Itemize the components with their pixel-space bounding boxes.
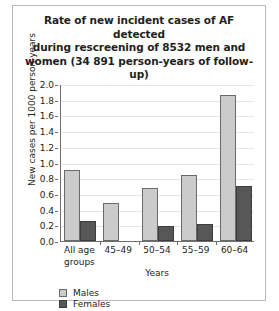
legend-item: Males	[59, 287, 110, 298]
x-axis-title: Years	[60, 268, 254, 278]
bar-male	[103, 203, 119, 241]
bar-female	[197, 224, 213, 241]
bar-series-container	[61, 85, 254, 241]
chart-title-line: Rate of new incident cases of AF detecte…	[19, 14, 259, 41]
bar-group	[216, 85, 255, 241]
y-axis-tick-label: 2.0	[40, 80, 54, 90]
bar-male	[181, 175, 197, 241]
chart-figure: Rate of new incident cases of AF detecte…	[12, 5, 266, 301]
y-axis-tick-mark	[55, 242, 58, 243]
y-axis-tick-mark	[55, 85, 58, 86]
x-axis-tick-label-line: 50–54	[138, 245, 177, 257]
chart-title-line: during rescreening of 8532 men and	[19, 41, 259, 55]
bar-male	[220, 95, 236, 241]
x-axis-tick-label-line: groups	[60, 257, 99, 269]
y-axis-tick-mark	[55, 101, 58, 102]
bar-female	[158, 226, 174, 241]
bar-male	[64, 170, 80, 241]
y-axis-tick-label: 0.8	[40, 174, 54, 184]
x-axis-tick-label: 55–59	[176, 245, 215, 257]
legend: MalesFemales	[59, 287, 110, 309]
y-axis-tick-label: 0.4	[40, 206, 54, 216]
y-axis-tick-mark	[55, 164, 58, 165]
legend-swatch	[59, 300, 67, 308]
x-axis-tick-label: All agegroups	[60, 245, 99, 268]
bar-female	[80, 221, 96, 241]
legend-label: Males	[73, 288, 99, 298]
x-axis-tick-label: 50–54	[138, 245, 177, 257]
bar-group	[61, 85, 100, 241]
y-axis-tick-mark	[55, 179, 58, 180]
bar-female	[236, 186, 252, 241]
y-axis-tick-mark	[55, 195, 58, 196]
y-axis-tick-label: 1.8	[40, 96, 54, 106]
y-axis-tick-label: 0.0	[40, 237, 54, 247]
y-axis-tick-mark	[55, 116, 58, 117]
y-axis-title: New cases per 1000 person-years	[27, 36, 37, 186]
y-axis-tick-mark	[55, 148, 58, 149]
legend-label: Females	[73, 299, 110, 309]
legend-swatch	[59, 289, 67, 297]
bar-group	[177, 85, 216, 241]
y-axis-tick-label: 0.2	[40, 221, 54, 231]
x-axis-tick-label-line: 60–64	[215, 245, 254, 257]
bar-group	[100, 85, 139, 241]
legend-item: Females	[59, 298, 110, 309]
y-axis-tick-label: 1.0	[40, 159, 54, 169]
y-axis-tick-label: 1.2	[40, 143, 54, 153]
x-axis-tick-label-line: 55–59	[176, 245, 215, 257]
y-axis-tick-label: 1.4	[40, 127, 54, 137]
y-axis-tick-mark	[55, 226, 58, 227]
x-axis-tick-label: 60–64	[215, 245, 254, 257]
y-axis-tick-label: 0.6	[40, 190, 54, 200]
chart-title: Rate of new incident cases of AF detecte…	[19, 14, 259, 82]
plot-area	[60, 85, 254, 242]
x-axis-tick-label: 45–49	[99, 245, 138, 257]
x-axis-tick-label-line: 45–49	[99, 245, 138, 257]
y-axis-tick-label: 1.6	[40, 111, 54, 121]
x-axis-tick-label-line: All age	[60, 245, 99, 257]
y-axis-tick-mark	[55, 211, 58, 212]
bar-group	[139, 85, 178, 241]
y-axis-tick-mark	[55, 132, 58, 133]
bar-male	[142, 188, 158, 241]
